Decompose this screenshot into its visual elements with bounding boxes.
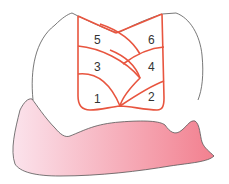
gum: [13, 99, 214, 176]
region-label-3: 3: [94, 60, 101, 74]
region-label-2: 2: [148, 90, 155, 104]
region-label-6: 6: [148, 33, 155, 47]
tooth-diagram: 5 6 3 4 1 2: [0, 0, 229, 184]
tooth-outline: [32, 13, 203, 100]
region-label-5: 5: [94, 33, 101, 47]
region-label-4: 4: [148, 60, 155, 74]
region-label-1: 1: [94, 92, 101, 106]
